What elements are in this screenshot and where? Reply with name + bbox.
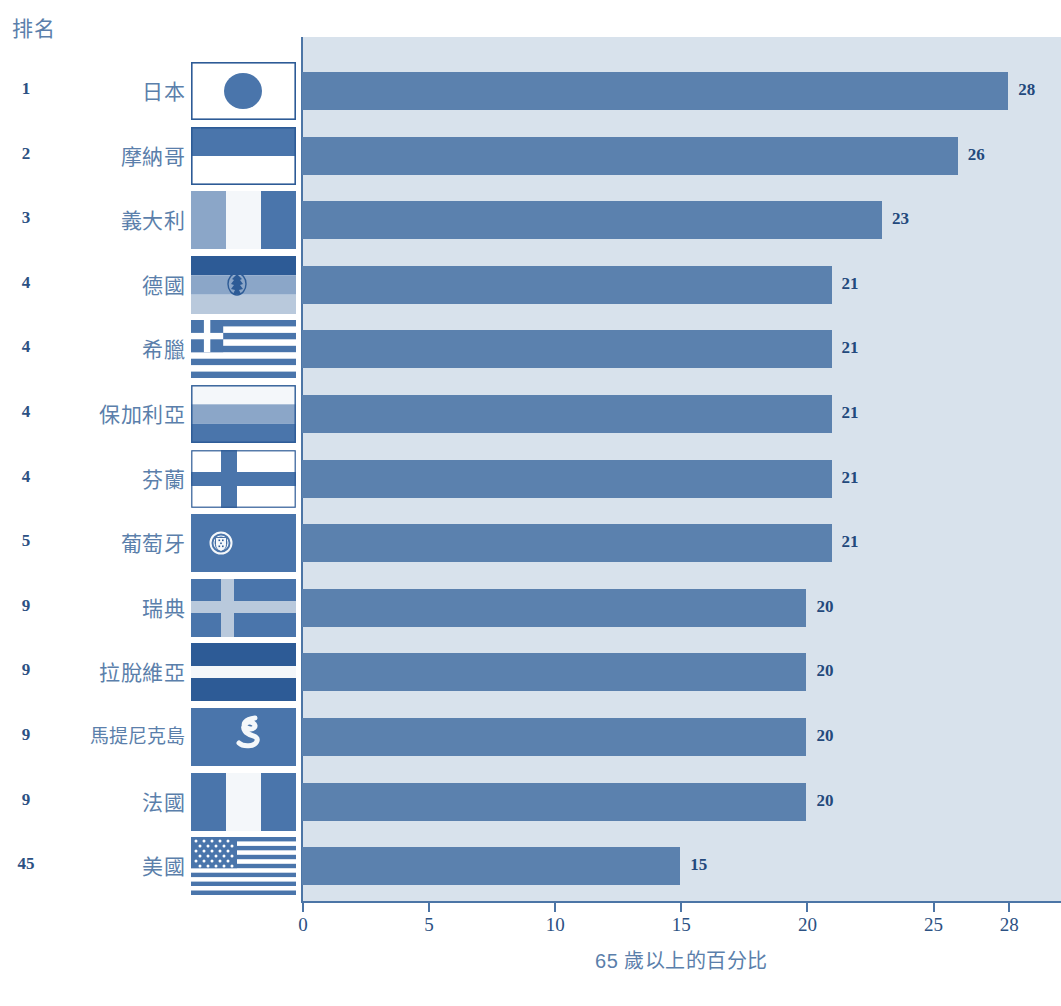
flag-monaco-icon bbox=[191, 127, 296, 185]
table-row: 9馬提尼克島 20 bbox=[0, 705, 1061, 769]
x-axis-tick bbox=[554, 903, 556, 912]
bar-value-label: 20 bbox=[816, 597, 833, 617]
rank-value: 9 bbox=[0, 596, 52, 616]
country-label: 葡萄牙 bbox=[52, 527, 185, 557]
bar-value-label: 21 bbox=[842, 338, 859, 358]
flag-germany-icon bbox=[191, 256, 296, 314]
bar-value-label: 21 bbox=[842, 403, 859, 423]
table-row: 4保加利亞 21 bbox=[0, 382, 1061, 446]
bar-value-label: 21 bbox=[842, 274, 859, 294]
flag-italy-icon bbox=[191, 191, 296, 249]
country-label: 義大利 bbox=[52, 204, 185, 234]
flag-bulgaria-icon bbox=[191, 385, 296, 443]
rank-value: 9 bbox=[0, 725, 52, 745]
bar bbox=[302, 847, 680, 885]
flag-latvia-icon bbox=[191, 643, 296, 701]
x-axis-tick-label: 20 bbox=[787, 914, 827, 936]
x-axis-tick-label: 28 bbox=[989, 914, 1029, 936]
rank-column-header: 排名 bbox=[12, 12, 56, 42]
table-row: 45美國 15 bbox=[0, 834, 1061, 898]
table-row: 2摩納哥 26 bbox=[0, 124, 1061, 188]
bar bbox=[302, 718, 806, 756]
bar-value-label: 20 bbox=[816, 726, 833, 746]
flag-greece-icon bbox=[191, 320, 296, 378]
x-axis-tick bbox=[933, 903, 935, 912]
bar-value-label: 20 bbox=[816, 661, 833, 681]
table-row: 9拉脫維亞 20 bbox=[0, 640, 1061, 704]
bar bbox=[302, 330, 832, 368]
rank-value: 5 bbox=[0, 531, 52, 551]
bar-value-label: 28 bbox=[1018, 80, 1035, 100]
bar bbox=[302, 395, 832, 433]
rank-value: 4 bbox=[0, 337, 52, 357]
table-row: 9瑞典 20 bbox=[0, 576, 1061, 640]
bar-value-label: 21 bbox=[842, 468, 859, 488]
flag-martinique-icon bbox=[191, 708, 296, 766]
bar bbox=[302, 653, 806, 691]
bar bbox=[302, 201, 882, 239]
bar-value-label: 20 bbox=[816, 791, 833, 811]
rank-value: 2 bbox=[0, 144, 52, 164]
country-label: 德國 bbox=[52, 269, 185, 299]
rank-value: 4 bbox=[0, 273, 52, 293]
bar bbox=[302, 137, 958, 175]
country-label: 保加利亞 bbox=[52, 398, 185, 428]
x-axis-tick bbox=[680, 903, 682, 912]
country-label: 拉脫維亞 bbox=[52, 656, 185, 686]
bar-value-label: 21 bbox=[842, 532, 859, 552]
x-axis-tick bbox=[428, 903, 430, 912]
table-row: 4希臘 21 bbox=[0, 317, 1061, 381]
bar bbox=[302, 72, 1008, 110]
table-row: 3義大利 23 bbox=[0, 188, 1061, 252]
bar bbox=[302, 783, 806, 821]
rank-value: 9 bbox=[0, 660, 52, 680]
flag-finland-icon bbox=[191, 450, 296, 508]
bar bbox=[302, 589, 806, 627]
table-row: 4德國 21 bbox=[0, 253, 1061, 317]
rank-value: 4 bbox=[0, 402, 52, 422]
country-label: 美國 bbox=[52, 850, 185, 880]
flag-france-icon bbox=[191, 773, 296, 831]
bar-value-label: 15 bbox=[690, 855, 707, 875]
country-label: 馬提尼克島 bbox=[52, 721, 185, 748]
rank-value: 4 bbox=[0, 467, 52, 487]
x-axis-tick-label: 15 bbox=[661, 914, 701, 936]
country-label: 摩納哥 bbox=[52, 140, 185, 170]
flag-sweden-icon bbox=[191, 579, 296, 637]
x-axis-tick-label: 0 bbox=[283, 914, 323, 936]
x-axis-tick-label: 25 bbox=[914, 914, 954, 936]
flag-usa-icon bbox=[191, 837, 296, 895]
rank-value: 3 bbox=[0, 208, 52, 228]
table-row: 5葡萄牙 21 bbox=[0, 511, 1061, 575]
country-label: 法國 bbox=[52, 786, 185, 816]
country-label: 瑞典 bbox=[52, 592, 185, 622]
table-row: 1日本 28 bbox=[0, 59, 1061, 123]
rank-value: 1 bbox=[0, 79, 52, 99]
rank-value: 9 bbox=[0, 790, 52, 810]
x-axis-title: 65 歲以上的百分比 bbox=[302, 945, 1061, 974]
x-axis-tick bbox=[302, 903, 304, 912]
table-row: 9法國 20 bbox=[0, 770, 1061, 834]
bar bbox=[302, 460, 832, 498]
country-label: 芬蘭 bbox=[52, 463, 185, 493]
table-row: 4芬蘭 21 bbox=[0, 447, 1061, 511]
bar-value-label: 23 bbox=[892, 209, 909, 229]
x-axis-tick bbox=[1008, 903, 1010, 912]
bar bbox=[302, 524, 832, 562]
bar bbox=[302, 266, 832, 304]
country-label: 希臘 bbox=[52, 333, 185, 363]
x-axis-tick-label: 5 bbox=[409, 914, 449, 936]
x-axis-tick-label: 10 bbox=[535, 914, 575, 936]
flag-portugal-icon bbox=[191, 514, 296, 572]
x-axis-tick bbox=[806, 903, 808, 912]
flag-japan-icon bbox=[191, 62, 296, 120]
rank-value: 45 bbox=[0, 854, 52, 874]
country-label: 日本 bbox=[52, 75, 185, 105]
bar-value-label: 26 bbox=[968, 145, 985, 165]
